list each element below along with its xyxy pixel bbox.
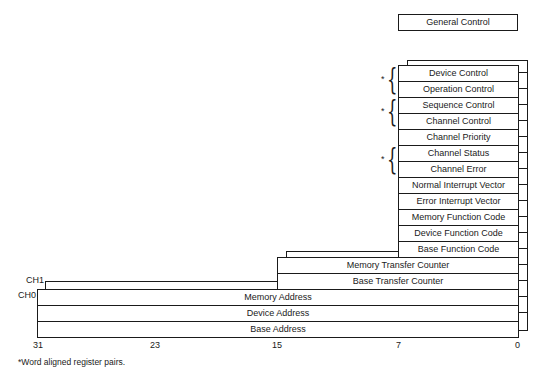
general-control-register: General Control xyxy=(398,14,518,31)
register-channel-status: Channel Status xyxy=(398,145,519,162)
tick xyxy=(518,200,527,201)
register-memory-function-code: Memory Function Code xyxy=(398,209,519,226)
ch1-outline-top-16bit xyxy=(286,251,398,252)
register-base-function-code: Base Function Code xyxy=(398,241,519,258)
ch1-outline-right xyxy=(527,60,528,330)
word-aligned-marker: * xyxy=(381,106,385,116)
register-channel-error: Channel Error xyxy=(398,161,519,178)
brace-icon: { xyxy=(387,64,398,94)
register-device-control: Device Control xyxy=(398,65,519,82)
register-sequence-control: Sequence Control xyxy=(398,97,519,114)
tick xyxy=(518,152,527,153)
tick xyxy=(518,136,527,137)
tick xyxy=(518,120,527,121)
register-error-interrupt-vector: Error Interrupt Vector xyxy=(398,193,519,210)
brace-icon: { xyxy=(387,96,398,126)
footnote: *Word aligned register pairs. xyxy=(18,357,125,367)
tick xyxy=(518,280,527,281)
tick xyxy=(518,104,527,105)
register-normal-interrupt-vector: Normal Interrupt Vector xyxy=(398,177,519,194)
word-aligned-marker: * xyxy=(381,154,385,164)
tick xyxy=(518,216,527,217)
register-base-transfer-counter: Base Transfer Counter xyxy=(277,273,519,290)
register-operation-control: Operation Control xyxy=(398,81,519,98)
tick xyxy=(518,72,527,73)
channel-label-ch1: CH1 xyxy=(26,275,44,285)
ch1-outline-bottom xyxy=(518,330,528,331)
register-memory-address: Memory Address xyxy=(37,289,519,306)
register-base-address: Base Address xyxy=(37,321,519,338)
tick xyxy=(518,184,527,185)
tick xyxy=(518,88,527,89)
tick xyxy=(518,312,527,313)
register-channel-control: Channel Control xyxy=(398,113,519,130)
bit-label-31: 31 xyxy=(33,340,43,350)
ch1-outline-top-8bit xyxy=(407,60,528,61)
ch1-outline-left-32bit xyxy=(45,281,46,289)
bit-label-23: 23 xyxy=(150,340,160,350)
register-channel-priority: Channel Priority xyxy=(398,129,519,146)
bit-label-15: 15 xyxy=(272,340,282,350)
tick xyxy=(518,168,527,169)
tick xyxy=(518,296,527,297)
register-device-function-code: Device Function Code xyxy=(398,225,519,242)
tick xyxy=(518,232,527,233)
ch1-outline-top-32bit xyxy=(45,281,277,282)
tick xyxy=(518,248,527,249)
bit-label-7: 7 xyxy=(396,340,401,350)
brace-icon: { xyxy=(387,144,398,174)
bit-label-0: 0 xyxy=(515,340,520,350)
tick xyxy=(518,264,527,265)
register-memory-transfer-counter: Memory Transfer Counter xyxy=(277,257,519,274)
register-device-address: Device Address xyxy=(37,305,519,322)
channel-label-ch0: CH0 xyxy=(18,290,36,300)
word-aligned-marker: * xyxy=(381,74,385,84)
